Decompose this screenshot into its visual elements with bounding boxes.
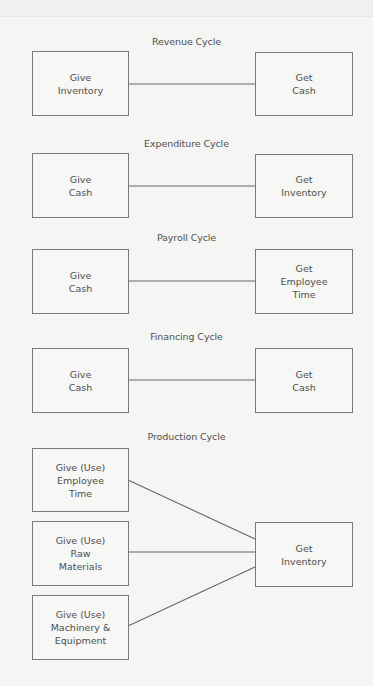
production-give-machinery-box: Give (Use) Machinery & Equipment [32,595,129,660]
production-connector-employee [128,480,255,539]
revenue-give-box: Give Inventory [32,51,129,116]
expenditure-give-box: Give Cash [32,153,129,218]
production-cycle-title: Production Cycle [0,431,373,442]
payroll-cycle-title: Payroll Cycle [0,232,373,243]
production-give-employee-time-box: Give (Use) Employee Time [32,448,129,512]
expenditure-cycle-title: Expenditure Cycle [0,138,373,149]
financing-give-box: Give Cash [32,348,129,413]
production-connector-machinery [128,567,255,626]
financing-cycle-title: Financing Cycle [0,331,373,342]
production-get-inventory-box: Get Inventory [255,522,353,587]
financing-get-box: Get Cash [255,348,353,413]
payroll-get-box: Get Employee Time [255,249,353,314]
revenue-get-box: Get Cash [255,52,353,116]
revenue-cycle-title: Revenue Cycle [0,36,373,47]
payroll-give-box: Give Cash [32,249,129,314]
expenditure-get-box: Get Inventory [255,154,353,218]
production-give-raw-materials-box: Give (Use) Raw Materials [32,521,129,586]
